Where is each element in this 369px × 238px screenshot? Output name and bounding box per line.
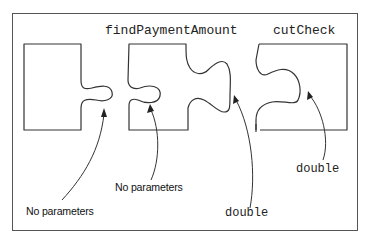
annotation-double-return: double [225,207,268,219]
diagram-canvas: findPaymentAmount cutCheck No parameters… [0,0,369,238]
arrowhead-icon [101,108,107,117]
puzzle-piece-cut-check [256,44,347,130]
piece-title-cut-check: cutCheck [273,24,335,37]
annotation-double-param: double [296,163,339,175]
annotation-no-parameters-first: No parameters [26,206,94,218]
arrow-ann-2 [151,110,158,180]
annotation-no-parameters-second: No parameters [115,182,183,194]
arrow-ann-4 [310,96,326,160]
arrowhead-icon [233,95,239,104]
puzzle-piece-first [24,44,112,130]
arrow-ann-1 [62,114,104,200]
arrow-ann-3 [236,100,253,208]
piece-title-find-payment-amount: findPaymentAmount [105,24,238,37]
puzzle-piece-find-payment-amount [128,44,230,130]
arrowhead-icon [147,104,154,113]
